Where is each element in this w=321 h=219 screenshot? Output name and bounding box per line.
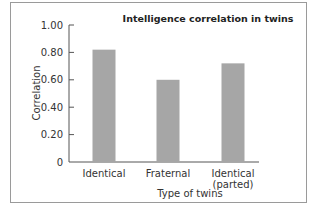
y-tick-label: 0.40 [41, 102, 63, 113]
y-tick-label: 0 [57, 157, 63, 168]
bar-identical-parted [222, 63, 245, 162]
x-tick-label: Identical [83, 168, 126, 179]
y-tick-label: 1.00 [41, 20, 63, 31]
chart-title: Intelligence correlation in twins [123, 13, 294, 24]
y-tick-label: 0.20 [41, 129, 63, 140]
bar-identical [93, 50, 116, 162]
x-tick-label: (parted) [213, 179, 254, 190]
bar-fraternal [157, 80, 180, 162]
bar-chart: Intelligence correlation in twins Correl… [0, 0, 321, 219]
x-tick-label: Identical [212, 168, 255, 179]
x-tick-label: Fraternal [146, 168, 191, 179]
y-tick-label: 0.60 [41, 74, 63, 85]
y-tick-label: 0.80 [41, 47, 63, 58]
